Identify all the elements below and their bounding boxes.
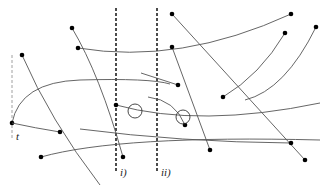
endpoint-dot — [70, 26, 75, 31]
endpoint-dot — [39, 155, 44, 160]
endpoint-dot — [170, 12, 175, 17]
trajectory-curve — [78, 14, 291, 52]
endpoint-dot — [20, 53, 25, 58]
trajectory-curve — [22, 55, 100, 185]
endpoint-dot — [283, 31, 288, 36]
trajectory-curve — [223, 33, 285, 97]
trajectory-curve — [12, 123, 60, 132]
endpoint-dot — [170, 45, 175, 50]
endpoint-dot — [289, 12, 294, 17]
endpoint-dot — [208, 148, 213, 153]
endpoint-dot — [76, 46, 81, 51]
intersection-circle-icon — [128, 104, 142, 118]
label-line-ii: ii) — [161, 166, 171, 178]
endpoint-dot — [221, 95, 226, 100]
endpoint-dot — [114, 103, 119, 108]
endpoint-dot — [58, 130, 63, 135]
label-line-i: i) — [120, 166, 127, 178]
trajectory-curve — [172, 47, 210, 150]
trajectory-curve — [245, 27, 316, 100]
endpoint-dot — [176, 83, 181, 88]
trajectory-curve — [41, 139, 320, 157]
trajectory-curve — [141, 73, 178, 85]
trajectory-curve — [116, 103, 320, 116]
diagram-canvas: t i) ii) — [0, 0, 321, 185]
endpoint-dot — [121, 155, 126, 160]
trajectory-curve — [12, 80, 170, 124]
diagram-svg — [0, 0, 321, 185]
trajectory-curve — [80, 129, 291, 143]
endpoint-dot — [303, 158, 308, 163]
label-t: t — [16, 130, 19, 142]
endpoint-dot — [289, 141, 294, 146]
intersection-circle-icon — [176, 110, 190, 124]
endpoint-dot — [314, 25, 319, 30]
